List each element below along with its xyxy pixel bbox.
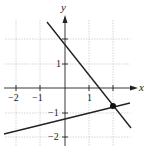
x-axis-arrow-icon (130, 86, 138, 91)
tick-label-y-neg2: −2 (48, 132, 59, 142)
y-axis-label: y (61, 2, 66, 13)
plot-area (0, 0, 145, 146)
graph: y x −2 −1 1 1 −1 −2 (0, 0, 145, 146)
tick-label-x-neg2: −2 (8, 93, 19, 103)
intersection-point (110, 103, 116, 109)
tick-label-x-neg1: −1 (32, 93, 43, 103)
tick-label-y-neg1: −1 (48, 108, 59, 118)
tick-label-x-1: 1 (87, 93, 92, 103)
y-axis-arrow-icon (63, 15, 68, 23)
tick-label-y-1: 1 (56, 59, 61, 69)
x-axis-label: x (139, 82, 144, 93)
